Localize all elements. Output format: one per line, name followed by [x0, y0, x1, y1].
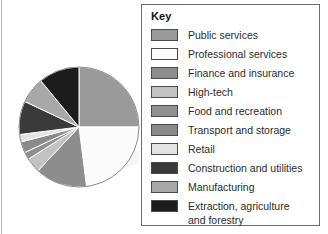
legend-swatch-icon — [151, 67, 178, 79]
legend-swatch-icon — [151, 86, 178, 98]
legend-item: Construction and utilities — [142, 159, 319, 178]
pie-chart — [17, 65, 141, 189]
legend-item: High-tech — [142, 83, 319, 102]
legend-item: Extraction, agriculture and forestry — [142, 197, 319, 227]
legend-item: Professional services — [142, 45, 319, 64]
legend-swatch-icon — [151, 162, 178, 174]
legend-item-label: Finance and insurance — [188, 64, 294, 80]
legend-item-label: Transport and storage — [188, 121, 291, 137]
legend-item-label: Extraction, agriculture and forestry — [188, 197, 290, 227]
legend-item: Manufacturing — [142, 178, 319, 197]
legend-box: Key Public servicesProfessional services… — [141, 4, 320, 226]
pie-chart-svg — [17, 65, 141, 189]
legend-item-label: Public services — [188, 26, 258, 42]
legend-title: Key — [151, 10, 171, 22]
legend-item-label: Retail — [188, 140, 215, 156]
legend-item-list: Public servicesProfessional servicesFina… — [142, 26, 319, 227]
legend-item: Finance and insurance — [142, 64, 319, 83]
legend-item: Transport and storage — [142, 121, 319, 140]
pie-slice — [79, 127, 139, 187]
legend-swatch-icon — [151, 105, 178, 117]
legend-swatch-icon — [151, 181, 178, 193]
legend-item-label: Food and recreation — [188, 102, 282, 118]
legend-item: Public services — [142, 26, 319, 45]
legend-swatch-icon — [151, 124, 178, 136]
legend-item: Retail — [142, 140, 319, 159]
legend-item-label: Professional services — [188, 45, 287, 61]
legend-swatch-icon — [151, 143, 178, 155]
page-edge-artifact — [1, 0, 2, 234]
figure-pie-chart-with-key: Key Public servicesProfessional services… — [0, 0, 328, 234]
legend-item-label: High-tech — [188, 83, 233, 99]
legend-swatch-icon — [151, 48, 178, 60]
legend-item: Food and recreation — [142, 102, 319, 121]
legend-swatch-icon — [151, 200, 178, 212]
legend-swatch-icon — [151, 29, 178, 41]
legend-item-label: Manufacturing — [188, 178, 255, 194]
legend-item-label: Construction and utilities — [188, 159, 302, 175]
pie-slice — [79, 67, 139, 127]
